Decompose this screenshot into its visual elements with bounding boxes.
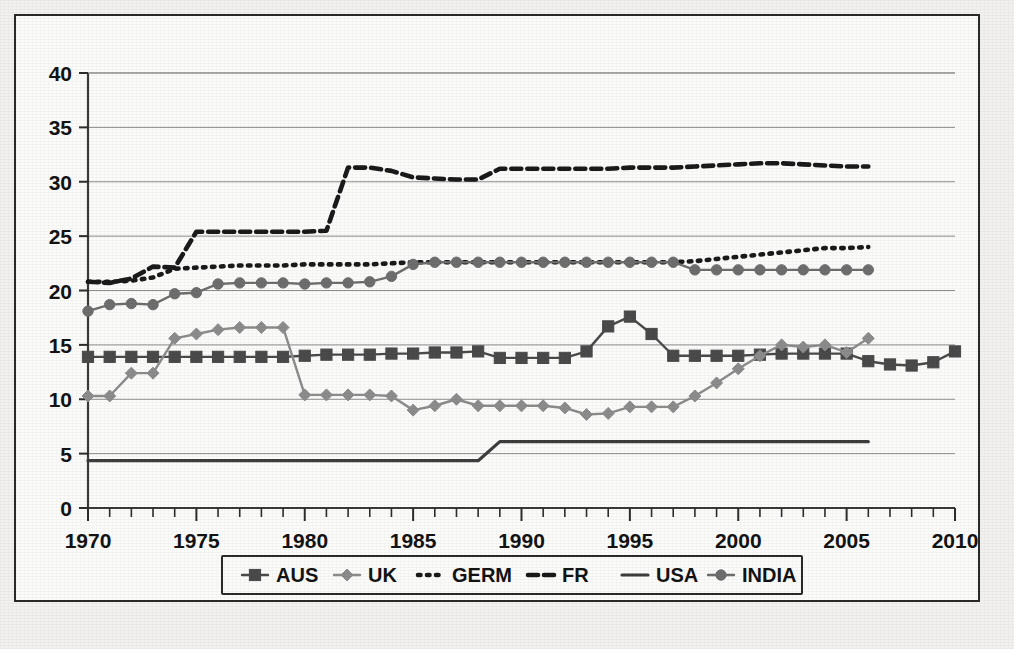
marker-india-2001 xyxy=(755,265,765,275)
marker-india-1979 xyxy=(278,278,288,288)
marker-aus-1998 xyxy=(689,350,700,361)
marker-uk-1998 xyxy=(689,390,701,402)
y-tick-label-5: 5 xyxy=(60,443,72,466)
y-tick-label-30: 30 xyxy=(49,171,72,194)
marker-india-1995 xyxy=(625,257,635,267)
marker-india-1996 xyxy=(646,257,656,267)
legend-label-aus: AUS xyxy=(276,564,318,586)
marker-india-2004 xyxy=(820,265,830,275)
marker-india-1997 xyxy=(668,257,678,267)
series-usa xyxy=(88,442,868,461)
marker-aus-1991 xyxy=(538,352,549,363)
marker-aus-1987 xyxy=(451,347,462,358)
series-line-usa xyxy=(88,442,868,461)
x-tick-label-1995: 1995 xyxy=(607,529,654,552)
marker-uk-1985 xyxy=(407,404,419,416)
marker-aus-1985 xyxy=(408,348,419,359)
x-tick-label-1970: 1970 xyxy=(65,529,112,552)
marker-uk-1986 xyxy=(429,400,441,412)
marker-uk-1989 xyxy=(494,400,506,412)
marker-aus-1992 xyxy=(559,352,570,363)
marker-aus-1981 xyxy=(321,349,332,360)
marker-aus-2006 xyxy=(863,356,874,367)
x-tick-label-2000: 2000 xyxy=(715,529,762,552)
x-tick-label-2005: 2005 xyxy=(823,529,870,552)
marker-india-2005 xyxy=(841,265,851,275)
marker-aus-1974 xyxy=(169,351,180,362)
marker-india-2006 xyxy=(863,265,873,275)
marker-india-1978 xyxy=(256,278,266,288)
legend-label-usa: USA xyxy=(656,564,698,586)
marker-india-1999 xyxy=(711,265,721,275)
marker-india-1983 xyxy=(365,277,375,287)
legend-label-germ: GERM xyxy=(452,564,512,586)
legend-label-fr: FR xyxy=(562,564,589,586)
x-tick-label-1990: 1990 xyxy=(498,529,545,552)
y-axis-ticks: 0510152025303540 xyxy=(49,62,88,520)
x-axis-ticks: 197019751980198519901995200020052010 xyxy=(65,508,979,552)
marker-uk-1988 xyxy=(472,400,484,412)
marker-aus-2010 xyxy=(949,346,960,357)
marker-uk-1993 xyxy=(581,408,593,420)
marker-india-1977 xyxy=(235,278,245,288)
marker-aus-1976 xyxy=(212,351,223,362)
marker-aus-1986 xyxy=(429,347,440,358)
marker-uk-1995 xyxy=(624,401,636,413)
y-tick-label-40: 40 xyxy=(49,62,72,85)
marker-india-1990 xyxy=(516,257,526,267)
marker-aus-1994 xyxy=(603,321,614,332)
marker-uk-1976 xyxy=(212,324,224,336)
marker-aus-1984 xyxy=(386,348,397,359)
series-aus xyxy=(82,311,960,371)
marker-aus-1979 xyxy=(277,351,288,362)
marker-india-2000 xyxy=(733,265,743,275)
marker-aus-1995 xyxy=(624,311,635,322)
y-tick-label-35: 35 xyxy=(49,116,73,139)
marker-aus-1978 xyxy=(256,351,267,362)
marker-aus-2000 xyxy=(733,350,744,361)
marker-uk-1973 xyxy=(147,367,159,379)
data-series-group xyxy=(82,163,961,460)
marker-uk-2000 xyxy=(732,363,744,375)
marker-aus-1975 xyxy=(191,351,202,362)
marker-india-1987 xyxy=(451,257,461,267)
marker-india-1986 xyxy=(430,257,440,267)
marker-aus-1996 xyxy=(646,328,657,339)
marker-uk-2006 xyxy=(862,332,874,344)
marker-india-2002 xyxy=(776,265,786,275)
marker-aus-1980 xyxy=(299,350,310,361)
marker-india-1970 xyxy=(83,306,93,316)
marker-uk-1996 xyxy=(646,401,658,413)
marker-india-1976 xyxy=(213,279,223,289)
marker-aus-2007 xyxy=(884,359,895,370)
marker-uk-1979 xyxy=(277,321,289,333)
marker-uk-1974 xyxy=(169,332,181,344)
x-tick-label-2010: 2010 xyxy=(932,529,979,552)
x-tick-label-1985: 1985 xyxy=(390,529,437,552)
marker-aus-1999 xyxy=(711,350,722,361)
marker-india-1994 xyxy=(603,257,613,267)
marker-india-1988 xyxy=(473,257,483,267)
marker-aus-1973 xyxy=(147,351,158,362)
marker-uk-1999 xyxy=(711,377,723,389)
marker-india-1984 xyxy=(386,271,396,281)
marker-aus-2008 xyxy=(906,360,917,371)
marker-uk-1978 xyxy=(255,321,267,333)
marker-uk-1987 xyxy=(450,393,462,405)
marker-aus-1989 xyxy=(494,352,505,363)
marker-uk-1977 xyxy=(234,321,246,333)
marker-aus-1972 xyxy=(126,351,137,362)
legend-marker-aus xyxy=(249,569,260,580)
x-tick-label-1975: 1975 xyxy=(173,529,220,552)
marker-aus-1993 xyxy=(581,346,592,357)
marker-aus-1982 xyxy=(343,349,354,360)
y-tick-label-10: 10 xyxy=(49,388,72,411)
marker-india-1993 xyxy=(581,257,591,267)
marker-aus-1977 xyxy=(234,351,245,362)
marker-uk-1990 xyxy=(516,400,528,412)
marker-aus-2009 xyxy=(928,357,939,368)
series-uk xyxy=(82,321,874,420)
marker-aus-1970 xyxy=(82,351,93,362)
chart-figure: 0510152025303540 19701975198019851990199… xyxy=(0,0,1014,649)
marker-india-1998 xyxy=(690,265,700,275)
